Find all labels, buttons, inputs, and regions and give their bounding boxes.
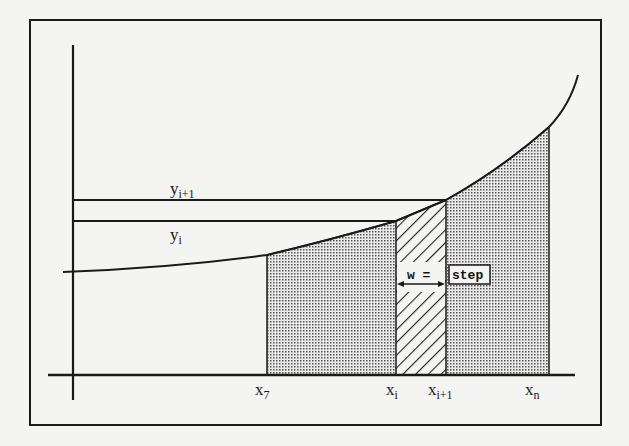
label-x-n: xn (525, 380, 540, 402)
label-x-i: xi (386, 380, 399, 402)
label-y-lower: yi (170, 225, 183, 247)
integration-diagram: w = step yi+1 yi x7 xi xi+1 xn (0, 0, 629, 446)
step-label: step (452, 268, 483, 283)
label-y-upper: yi+1 (170, 179, 195, 201)
label-x-start: x7 (255, 380, 270, 402)
label-x-i-plus-1: xi+1 (428, 380, 453, 402)
width-label: w = (407, 268, 431, 283)
